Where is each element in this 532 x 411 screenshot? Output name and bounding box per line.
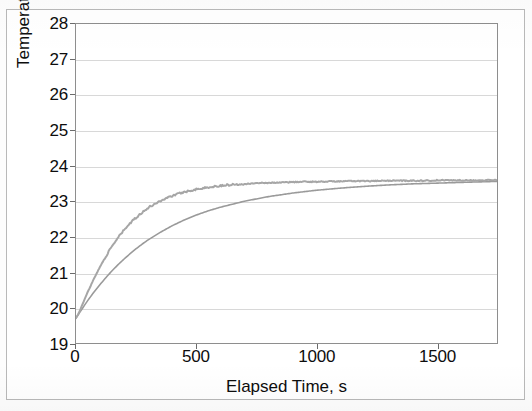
- y-axis-title-container: Temperature, °C: [16, 0, 36, 330]
- x-tick-label-500: 500: [161, 348, 231, 365]
- y-tick-label-22: 22: [38, 229, 68, 246]
- y-tick-label-27: 27: [38, 51, 68, 68]
- y-tick-label-23: 23: [38, 193, 68, 210]
- x-tick-label-1000: 1000: [282, 348, 352, 365]
- x-tick-mark-0: [75, 344, 76, 349]
- y-tick-label-21: 21: [38, 265, 68, 282]
- measured-temperature-line: [76, 180, 497, 318]
- y-axis-title: Temperature, °C: [14, 0, 34, 96]
- y-tick-label-24: 24: [38, 158, 68, 175]
- x-tick-label-1500: 1500: [403, 348, 473, 365]
- y-tick-label-28: 28: [38, 15, 68, 32]
- y-tick-label-26: 26: [38, 86, 68, 103]
- plot-area: [75, 23, 498, 344]
- x-tick-label-0: 0: [40, 348, 110, 365]
- x-axis-title: Elapsed Time, s: [75, 377, 498, 397]
- y-tick-label-20: 20: [38, 300, 68, 317]
- series-layer: [76, 24, 497, 343]
- x-tick-mark-1500: [438, 344, 439, 349]
- temperature-chart-figure: Temperature, °C 19202122232425262728 050…: [0, 0, 532, 411]
- exponential-fit-line: [76, 181, 497, 318]
- x-tick-mark-500: [196, 344, 197, 349]
- x-tick-mark-1000: [317, 344, 318, 349]
- y-tick-label-25: 25: [38, 122, 68, 139]
